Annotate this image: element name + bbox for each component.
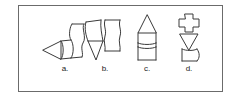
shape-b bbox=[81, 10, 129, 64]
figure-panel: a. b. bbox=[18, 5, 223, 92]
shape-label-d: d. bbox=[165, 64, 213, 74]
shape-cell-c: c. bbox=[123, 6, 171, 93]
shape-d bbox=[165, 10, 213, 64]
shape-cell-b: b. bbox=[81, 6, 129, 93]
shape-cell-d: d. bbox=[165, 6, 213, 93]
shape-label-c: c. bbox=[123, 64, 171, 74]
shape-label-b: b. bbox=[81, 64, 129, 74]
shape-c bbox=[123, 10, 171, 64]
